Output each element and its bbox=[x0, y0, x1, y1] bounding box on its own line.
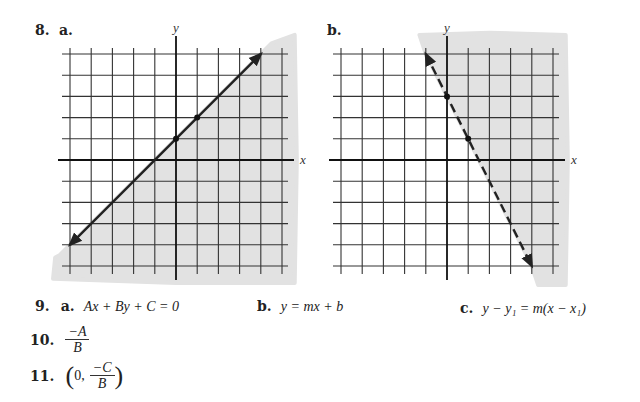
problem-11: 11. (0, −C B ) bbox=[30, 360, 123, 391]
problem-9b-label: b. bbox=[257, 298, 272, 314]
problem-9b: b. y = mx + b bbox=[257, 296, 343, 315]
plotted-point bbox=[465, 136, 471, 142]
fraction-numerator: −C bbox=[90, 360, 115, 376]
close-paren: ) bbox=[115, 361, 124, 390]
problem-9a-label: a. bbox=[61, 298, 75, 314]
graph-b: xy bbox=[329, 20, 577, 285]
plotted-point bbox=[173, 136, 179, 142]
problem-10-fraction: −A B bbox=[65, 324, 89, 355]
problem-10: 10. −A B bbox=[30, 324, 89, 355]
problem-10-number: 10. bbox=[30, 332, 54, 348]
open-paren: ( bbox=[65, 361, 74, 390]
problem-9c: c. y − y₁ = m(x − x₁) bbox=[460, 298, 586, 317]
problem-9a-expr: Ax + By + C = 0 bbox=[84, 299, 179, 314]
plotted-point bbox=[444, 93, 450, 99]
problem-11-number: 11. bbox=[30, 368, 54, 384]
x-axis-label: x bbox=[299, 152, 306, 167]
fraction-numerator: −A bbox=[65, 324, 89, 340]
y-axis-label: y bbox=[442, 20, 450, 35]
y-axis-label: y bbox=[171, 20, 179, 35]
problem-9c-label: c. bbox=[460, 300, 473, 316]
point-x-coordinate: 0, bbox=[74, 368, 85, 383]
shaded-region bbox=[419, 33, 567, 285]
problem-9-number: 9. bbox=[35, 298, 50, 314]
problem-9b-expr: y = mx + b bbox=[281, 299, 343, 314]
graphs-canvas: xy xy bbox=[0, 0, 640, 300]
plotted-point bbox=[194, 115, 200, 121]
problem-9: 9. a. Ax + By + C = 0 bbox=[35, 296, 179, 315]
problem-11-fraction: −C B bbox=[90, 360, 115, 391]
fraction-denominator: B bbox=[73, 340, 82, 355]
x-axis-label: x bbox=[570, 152, 577, 167]
fraction-denominator: B bbox=[98, 376, 107, 391]
graph-a: xy bbox=[53, 20, 306, 283]
problem-9c-expr: y − y₁ = m(x − x₁) bbox=[483, 301, 586, 316]
